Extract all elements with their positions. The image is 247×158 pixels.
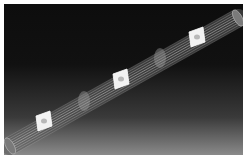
ring-2 (154, 48, 166, 68)
ring-1 (78, 91, 90, 111)
tube-assembly-diagram (4, 4, 243, 155)
render-viewport (4, 4, 243, 155)
